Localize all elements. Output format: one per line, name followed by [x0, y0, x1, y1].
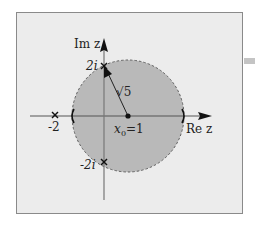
radius-label: √5	[116, 85, 131, 99]
imag-axis-label: Im z	[74, 37, 100, 51]
center-point	[125, 113, 130, 118]
complex-plane-diagram: Im z Re z 2i -2i -2 x 0 =1 √5	[0, 0, 255, 232]
center-label-x: x	[114, 122, 121, 136]
real-axis-label: Re z	[186, 122, 212, 136]
label-minus-2: -2	[48, 120, 60, 134]
point-minus2-marker-icon	[52, 112, 58, 118]
imag-axis-arrow-icon	[100, 38, 108, 52]
label-minus-2i: -2i	[80, 158, 96, 172]
real-axis-arrow-icon	[198, 112, 212, 120]
label-2i: 2i	[85, 59, 98, 73]
center-label-value: =1	[126, 122, 144, 136]
